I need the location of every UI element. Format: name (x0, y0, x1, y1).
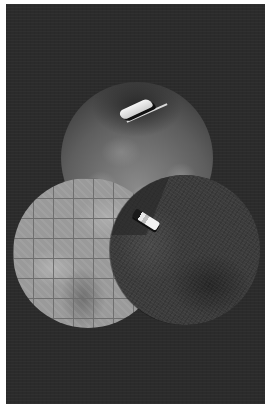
dark-wedge-shape (110, 175, 170, 235)
artwork-canvas (6, 4, 265, 404)
right-dark-circle-image (110, 175, 260, 325)
